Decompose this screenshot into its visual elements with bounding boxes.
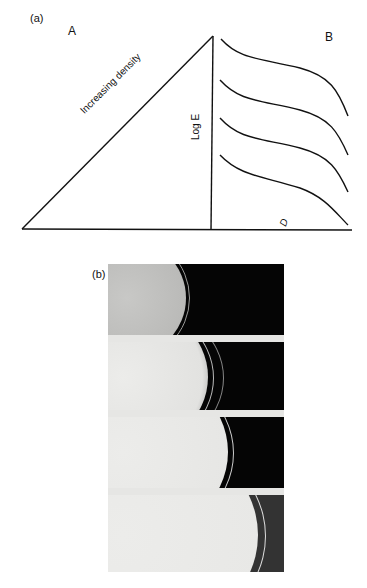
panel-a-label: (a) — [30, 12, 43, 24]
part-b-label: B — [325, 30, 333, 44]
photo-frame-2 — [108, 342, 284, 410]
photo-frame-4 — [108, 495, 284, 572]
photo-frame-1 — [108, 264, 284, 335]
log-e-axis — [211, 36, 213, 230]
base-line — [22, 229, 352, 230]
curve-3 — [220, 118, 348, 192]
log-e-label: Log E — [190, 114, 201, 140]
hypotenuse-line — [22, 36, 213, 229]
curve-4 — [220, 155, 348, 225]
part-a-label: A — [68, 24, 76, 38]
photo-frame-3 — [108, 417, 284, 488]
curve-1 — [221, 39, 348, 116]
panel-b-label: (b) — [92, 268, 105, 280]
